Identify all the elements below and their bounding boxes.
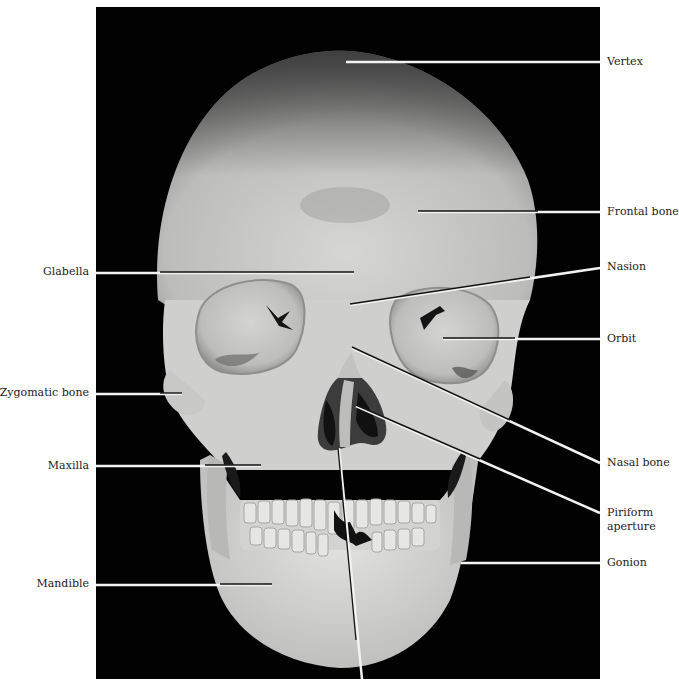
label-nasion: Nasion <box>607 260 646 274</box>
label-gonion: Gonion <box>607 556 647 570</box>
label-vertex: Vertex <box>607 55 643 69</box>
label-maxilla: Maxilla <box>48 459 89 473</box>
teeth <box>240 499 440 556</box>
cranium <box>157 51 537 320</box>
label-frontal-bone: Frontal bone <box>607 205 679 219</box>
label-nasal-bone: Nasal bone <box>607 456 670 470</box>
label-glabella: Glabella <box>43 265 89 279</box>
mandible <box>200 452 478 668</box>
label-orbit: Orbit <box>607 332 636 346</box>
label-zygomatic-bone: Zygomatic bone <box>0 386 89 400</box>
label-piriform-aperture-line1: Piriform <box>607 506 653 520</box>
label-mandible: Mandible <box>36 577 89 591</box>
label-piriform-aperture-line2: aperture <box>607 520 656 534</box>
